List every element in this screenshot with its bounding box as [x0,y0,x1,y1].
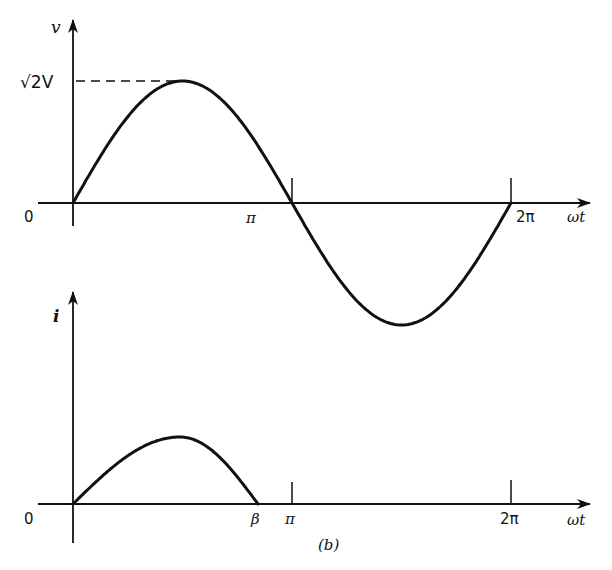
wt-label-top: ωt [567,208,586,226]
zero-label-top: 0 [24,208,34,226]
two-pi-label-bottom: 2π [500,510,519,528]
waveform-figure: v √2V 0 π 2π ωt i 0 β π 2π ωt (b) [0,0,612,570]
zero-label-bottom: 0 [24,510,34,528]
wt-label-bottom: ωt [567,511,586,529]
beta-label: β [250,510,260,528]
voltage-plot: v √2V 0 π 2π ωt [20,17,590,325]
i-axis-label: i [53,306,59,326]
two-pi-label-top: 2π [516,208,535,226]
pi-label-bottom: π [284,510,296,528]
figure-caption: (b) [318,536,339,554]
v-axis-label: v [51,17,61,37]
peak-label: √2V [20,72,54,92]
current-plot: i 0 β π 2π ωt [24,292,590,543]
current-curve [73,437,258,504]
pi-label-top: π [245,209,257,227]
